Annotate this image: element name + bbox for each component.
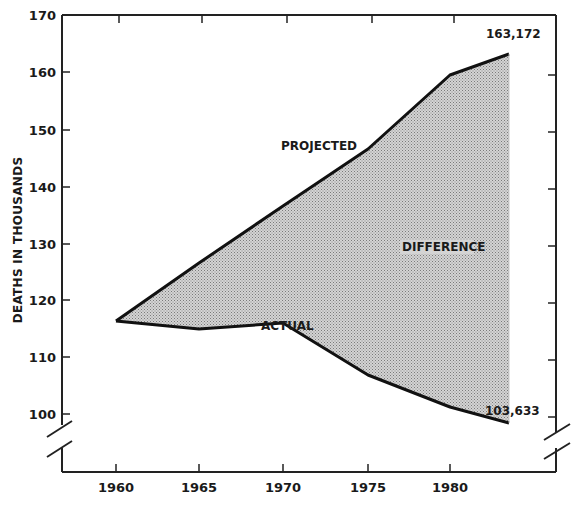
axis-break-left-icon	[47, 421, 72, 457]
x-tick-label: 1960	[98, 480, 134, 495]
y-tick-label: 140	[29, 180, 56, 195]
y-tick-label: 100	[29, 407, 56, 422]
y-ticks-left	[62, 72, 70, 414]
x-ticks-top	[119, 15, 454, 23]
y-tick-label: 130	[29, 237, 56, 252]
chart: 170 160 150 140 130 120 110 100 1960 196…	[0, 0, 581, 517]
y-ticks-right	[548, 75, 556, 417]
x-ticks-bottom	[116, 464, 450, 472]
x-tick-label: 1965	[181, 480, 217, 495]
y-tick-label: 120	[29, 293, 56, 308]
y-tick-label: 150	[29, 123, 56, 138]
x-tick-label: 1970	[265, 480, 301, 495]
y-tick-label: 170	[29, 8, 56, 23]
projected-label: PROJECTED	[281, 139, 357, 153]
y-axis-label: DEATHS IN THOUSANDS	[11, 157, 25, 324]
end-projected-value: 163,172	[486, 27, 541, 41]
y-tick-label: 160	[29, 65, 56, 80]
difference-area	[116, 54, 509, 423]
end-actual-value: 103,633	[485, 404, 540, 418]
difference-label: DIFFERENCE	[402, 240, 486, 254]
x-tick-label: 1975	[350, 480, 386, 495]
actual-label: ACTUAL	[261, 319, 314, 333]
y-tick-label: 110	[29, 350, 56, 365]
x-tick-label: 1980	[432, 480, 468, 495]
